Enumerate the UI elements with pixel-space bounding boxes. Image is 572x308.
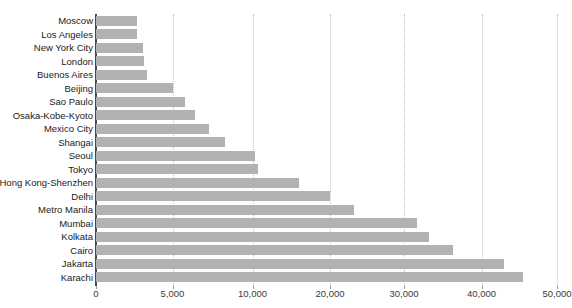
category-label: Delhi <box>0 190 93 204</box>
gridline <box>557 14 558 286</box>
bar[interactable] <box>96 178 299 188</box>
bar[interactable] <box>96 56 144 66</box>
x-tick-mark <box>253 286 254 289</box>
bar[interactable] <box>96 259 504 269</box>
bar[interactable] <box>96 232 429 242</box>
category-label: Cairo <box>0 244 93 258</box>
category-label: Karachi <box>0 271 93 285</box>
category-label: Osaka-Kobe-Kyoto <box>0 109 93 123</box>
x-tick-label: 50,000 <box>542 288 571 299</box>
bar-row[interactable] <box>96 176 557 190</box>
bar[interactable] <box>96 83 173 93</box>
category-label: Mexico City <box>0 122 93 136</box>
category-label: Mumbai <box>0 217 93 231</box>
bar[interactable] <box>96 218 417 228</box>
x-tick-label: 10,000 <box>238 288 267 299</box>
bar[interactable] <box>96 16 137 26</box>
bar[interactable] <box>96 97 185 107</box>
category-label: Moscow <box>0 14 93 28</box>
category-label: Hong Kong-Shenzhen <box>0 176 93 190</box>
bar-row[interactable] <box>96 122 557 136</box>
category-label: Seoul <box>0 149 93 163</box>
category-label: Shangai <box>0 136 93 150</box>
category-label: Los Angeles <box>0 28 93 42</box>
plot-area <box>96 14 557 286</box>
bar-row[interactable] <box>96 14 557 28</box>
category-label: Sao Paulo <box>0 95 93 109</box>
bar-chart: MoscowLos AngelesNew York CityLondonBuen… <box>0 0 572 308</box>
bar-row[interactable] <box>96 257 557 271</box>
category-label: Beijing <box>0 82 93 96</box>
x-tick-label: 30,000 <box>389 288 418 299</box>
x-tick-mark <box>330 286 331 289</box>
bar-row[interactable] <box>96 149 557 163</box>
bar-row[interactable] <box>96 28 557 42</box>
bar[interactable] <box>96 191 330 201</box>
bar[interactable] <box>96 43 143 53</box>
bar-row[interactable] <box>96 271 557 285</box>
x-tick-mark <box>404 286 405 289</box>
x-tick-mark <box>96 286 97 289</box>
category-label: New York City <box>0 41 93 55</box>
bar[interactable] <box>96 70 147 80</box>
bar-row[interactable] <box>96 136 557 150</box>
bar-row[interactable] <box>96 82 557 96</box>
bar[interactable] <box>96 205 354 215</box>
category-label: Kolkata <box>0 230 93 244</box>
x-tick-label: 0 <box>93 288 98 299</box>
bar[interactable] <box>96 137 225 147</box>
category-label: Metro Manila <box>0 203 93 217</box>
x-tick-mark <box>482 286 483 289</box>
bar[interactable] <box>96 245 453 255</box>
bar-row[interactable] <box>96 217 557 231</box>
category-label: Jakarta <box>0 257 93 271</box>
bar-row[interactable] <box>96 230 557 244</box>
bar[interactable] <box>96 110 195 120</box>
category-label: Buenos Aires <box>0 68 93 82</box>
bar-row[interactable] <box>96 68 557 82</box>
x-tick-label: 5,000 <box>161 288 185 299</box>
bar-row[interactable] <box>96 41 557 55</box>
bar[interactable] <box>96 164 258 174</box>
x-tick-label: 20,000 <box>315 288 344 299</box>
category-label: Tokyo <box>0 163 93 177</box>
bar[interactable] <box>96 29 137 39</box>
bar-row[interactable] <box>96 244 557 258</box>
x-tick-label: 40,000 <box>467 288 496 299</box>
bar-row[interactable] <box>96 95 557 109</box>
bar[interactable] <box>96 151 255 161</box>
bar-row[interactable] <box>96 163 557 177</box>
bar[interactable] <box>96 124 209 134</box>
x-tick-mark <box>557 286 558 289</box>
bar-row[interactable] <box>96 203 557 217</box>
bar-row[interactable] <box>96 109 557 123</box>
bar[interactable] <box>96 272 523 282</box>
bar-row[interactable] <box>96 55 557 69</box>
x-tick-mark <box>173 286 174 289</box>
bar-row[interactable] <box>96 190 557 204</box>
category-label: London <box>0 55 93 69</box>
